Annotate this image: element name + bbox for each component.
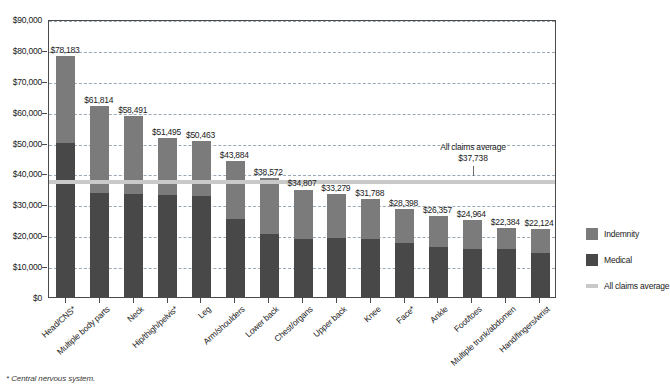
bar-segment-medical <box>56 143 75 297</box>
legend-item-indemnity: Indemnity <box>586 228 670 240</box>
bar-segment-indemnity <box>361 199 380 239</box>
bar <box>294 190 313 298</box>
bar-value-label: $28,398 <box>389 198 418 208</box>
gridline <box>49 52 555 53</box>
x-axis-tick <box>99 298 100 303</box>
bar-value-label: $22,124 <box>525 218 554 228</box>
y-axis-tick <box>42 144 47 145</box>
bar-segment-indemnity <box>531 229 550 253</box>
bar <box>158 138 177 297</box>
bar-segment-indemnity <box>395 209 414 243</box>
bar <box>531 229 550 297</box>
y-axis-tick <box>42 236 47 237</box>
gridline <box>49 21 555 22</box>
indemnity-swatch <box>586 228 598 240</box>
bar-segment-medical <box>124 194 143 297</box>
bar-value-label: $78,183 <box>50 45 79 55</box>
bar-segment-medical <box>294 239 313 297</box>
bar-value-label: $51,495 <box>152 127 181 137</box>
bar-value-label: $22,384 <box>491 217 520 227</box>
y-axis-tick <box>42 174 47 175</box>
bar-segment-medical <box>395 243 414 297</box>
y-axis-tick-label: $40,000 <box>13 169 42 179</box>
bar-segment-medical <box>260 234 279 297</box>
y-axis-tick <box>42 82 47 83</box>
y-axis-tick-label: $90,000 <box>13 15 42 25</box>
bar-segment-medical <box>361 239 380 297</box>
y-axis-tick-label: $30,000 <box>13 200 42 210</box>
x-axis-tick <box>234 298 235 303</box>
bar-segment-medical <box>497 249 516 297</box>
y-axis-tick <box>42 51 47 52</box>
legend-item-average: All claims average <box>586 280 670 292</box>
x-axis-tick <box>133 298 134 303</box>
bar-segment-indemnity <box>226 161 245 218</box>
chart-legend: Indemnity Medical All claims average <box>586 228 670 306</box>
bar-segment-medical <box>429 247 448 297</box>
y-axis-tick-label: $50,000 <box>13 139 42 149</box>
average-callout-value: $37,738 <box>398 153 548 164</box>
x-axis-category-label: Foot/toes <box>452 304 484 334</box>
bar-value-label: $38,572 <box>254 167 283 177</box>
bar-segment-medical <box>158 195 177 297</box>
average-leader-line <box>473 166 474 176</box>
all-claims-average-callout: All claims average $37,738 <box>398 142 548 164</box>
x-axis-category-label: Leg <box>196 304 213 321</box>
average-callout-title: All claims average <box>398 142 548 153</box>
legend-item-medical: Medical <box>586 254 670 266</box>
x-axis-tick <box>471 298 472 303</box>
bar-segment-medical <box>226 219 245 297</box>
bar-segment-medical <box>463 249 482 297</box>
bar <box>56 56 75 297</box>
bar-segment-medical <box>327 238 346 297</box>
x-axis-tick <box>65 298 66 303</box>
gridline <box>49 83 555 84</box>
bar-value-label: $33,279 <box>321 183 350 193</box>
x-axis-category-label: Neck <box>125 304 145 324</box>
bar-value-label: $34,807 <box>288 178 317 188</box>
bar-segment-medical <box>531 253 550 297</box>
bar-segment-indemnity <box>429 216 448 247</box>
bar-value-label: $50,463 <box>186 130 215 140</box>
x-axis-category-label: Face* <box>394 304 416 326</box>
x-axis-tick <box>370 298 371 303</box>
x-axis-tick <box>200 298 201 303</box>
bar-segment-indemnity <box>260 178 279 234</box>
bar-segment-indemnity <box>497 228 516 250</box>
x-axis-tick <box>268 298 269 303</box>
legend-label-average: All claims average <box>604 281 669 291</box>
bar <box>327 194 346 297</box>
bar <box>260 178 279 297</box>
legend-label-medical: Medical <box>604 255 632 265</box>
footnote: * Central nervous system. <box>6 374 95 383</box>
y-axis-tick-label: $20,000 <box>13 231 42 241</box>
y-axis-tick <box>42 267 47 268</box>
x-axis-tick <box>167 298 168 303</box>
bar-segment-indemnity <box>192 141 211 196</box>
x-axis-tick <box>539 298 540 303</box>
y-axis-tick <box>42 205 47 206</box>
bar-segment-indemnity <box>56 56 75 144</box>
bar-segment-medical <box>90 193 109 297</box>
x-axis-category-label: Multiple trunk/abdomen <box>449 304 518 368</box>
bar <box>497 228 516 297</box>
y-axis-tick-label: $60,000 <box>13 108 42 118</box>
y-axis-tick <box>42 113 47 114</box>
x-axis-tick <box>505 298 506 303</box>
bar <box>192 141 211 297</box>
y-axis-tick-label: $80,000 <box>13 46 42 56</box>
x-axis-tick <box>404 298 405 303</box>
legend-label-indemnity: Indemnity <box>604 229 639 239</box>
y-axis-tick-label: $70,000 <box>13 77 42 87</box>
x-axis-category-label: Upper back <box>311 304 349 339</box>
x-axis-tick <box>437 298 438 303</box>
medical-swatch <box>586 254 598 266</box>
average-line-swatch <box>586 284 598 288</box>
x-axis-category-label: Ankle <box>428 304 450 325</box>
bar <box>429 216 448 297</box>
bar-value-label: $58,491 <box>118 105 147 115</box>
bar-segment-medical <box>192 196 211 297</box>
bar-value-label: $43,884 <box>220 150 249 160</box>
bar <box>90 106 109 297</box>
